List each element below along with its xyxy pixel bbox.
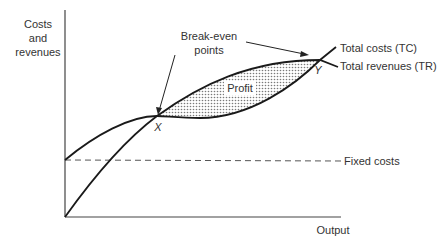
y-axis-label-line1: Costs (24, 18, 53, 30)
x-axis-label: Output (316, 224, 349, 236)
arrowhead-y-icon (300, 51, 309, 57)
break-even-label-line1: Break-even (181, 30, 237, 42)
point-y-label: Y (314, 64, 322, 76)
arrow-to-y (246, 42, 304, 54)
total-costs-label: Total costs (TC) (340, 42, 417, 54)
profit-label: Profit (227, 82, 253, 94)
y-axis-label-line3: revenues (15, 46, 61, 58)
break-even-label-line2: points (194, 44, 224, 56)
total-revenues-label: Total revenues (TR) (340, 60, 437, 72)
point-x-label: X (153, 121, 162, 133)
break-even-diagram: Costs and revenues Output Break-even poi… (0, 0, 448, 249)
y-axis-label-line2: and (29, 32, 47, 44)
fixed-costs-line (65, 160, 342, 161)
arrow-to-x (159, 55, 175, 111)
total-revenues-curve (65, 60, 338, 217)
fixed-costs-label: Fixed costs (344, 155, 400, 167)
